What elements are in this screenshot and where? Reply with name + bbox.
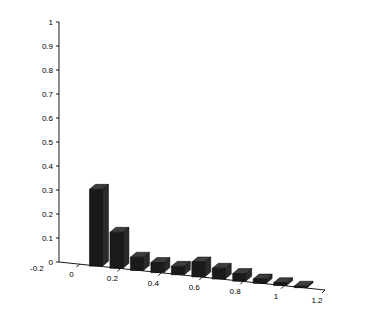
y-tick-label: 1 — [49, 18, 54, 27]
bar — [89, 184, 108, 266]
bar-front-face — [233, 274, 246, 282]
bar-top-face — [294, 281, 313, 286]
bar-side-face — [123, 227, 129, 268]
y-tick-label: 0.5 — [42, 138, 54, 147]
bar-front-face — [253, 279, 266, 283]
y-tick-label: 0.4 — [42, 162, 54, 171]
y-axis: 00.10.20.30.40.50.60.70.80.91 — [42, 18, 59, 267]
x-tick-label: 0.4 — [148, 279, 160, 288]
x-tick-mark — [158, 273, 161, 276]
figure-canvas: 00.10.20.30.40.50.60.70.80.91 00.20.40.6… — [0, 0, 389, 324]
y-tick-label: 0.9 — [42, 42, 54, 51]
bar — [110, 227, 129, 268]
bar — [233, 269, 252, 282]
x-tick-mark — [281, 286, 284, 289]
bar-front-face — [151, 263, 164, 273]
bar — [274, 278, 293, 286]
bar-side-face — [102, 184, 108, 266]
bar-front-face — [130, 257, 143, 270]
bar-front-face — [110, 232, 123, 268]
x-tick-mark — [199, 277, 202, 280]
x-tick-label: 0 — [69, 270, 74, 279]
y-tick-label: 0.3 — [42, 186, 54, 195]
x-tick-label: 0.6 — [189, 283, 201, 292]
bar-series — [89, 184, 313, 287]
x-tick-mark — [76, 264, 79, 267]
bar-front-face — [212, 268, 225, 279]
y-tick-label: 0 — [49, 258, 54, 267]
x-tick-mark — [322, 290, 325, 293]
bar — [253, 274, 272, 283]
y-tick-label: 0.2 — [42, 210, 54, 219]
bar-front-face — [274, 283, 287, 286]
x-tick-mark — [240, 281, 243, 284]
bar-front-face — [294, 286, 307, 287]
bar — [151, 258, 170, 273]
bar-chart-3d: 00.10.20.30.40.50.60.70.80.91 00.20.40.6… — [0, 0, 389, 324]
y-tick-label: 0.6 — [42, 114, 54, 123]
x-tick-label: 0.8 — [230, 287, 242, 296]
bar — [192, 257, 211, 277]
y-tick-label: 0.1 — [42, 234, 54, 243]
y-tick-label: 0.8 — [42, 66, 54, 75]
bar-front-face — [192, 262, 205, 277]
y-tick-label: 0.7 — [42, 90, 54, 99]
bar — [130, 252, 149, 270]
depth-axis-label: -0.2 — [30, 264, 44, 273]
x-tick-label: 0.2 — [107, 274, 119, 283]
bar-front-face — [89, 189, 102, 266]
bar — [171, 261, 190, 274]
bar — [294, 281, 313, 287]
x-tick-label: 1.2 — [311, 296, 323, 305]
bar — [212, 263, 231, 279]
bar-front-face — [171, 266, 184, 274]
x-tick-mark — [117, 268, 120, 271]
x-tick-label: 1 — [274, 292, 279, 301]
